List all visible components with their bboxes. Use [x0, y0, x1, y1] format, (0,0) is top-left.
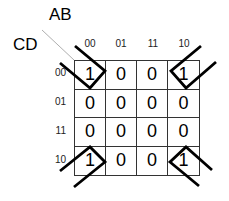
group-loop-top-left	[60, 46, 105, 88]
corner-group-loops	[0, 0, 229, 201]
group-loop-bottom-left	[60, 147, 105, 187]
group-loop-top-right	[171, 46, 216, 88]
group-loop-bottom-right	[170, 147, 212, 186]
